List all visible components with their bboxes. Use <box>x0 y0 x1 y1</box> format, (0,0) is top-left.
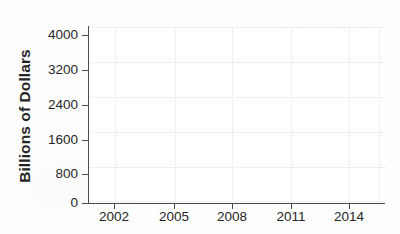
gridline-horizontal <box>88 132 385 133</box>
y-axis-tick-label: 2400 <box>22 98 78 112</box>
gridline-horizontal <box>88 62 385 63</box>
y-axis-tick-mark <box>82 35 88 36</box>
x-axis-tick-label: 2002 <box>89 210 139 224</box>
plot-background <box>88 27 385 204</box>
y-axis-tick-mark <box>82 140 88 141</box>
y-axis-tick-label: 0 <box>22 196 78 210</box>
y-axis-tick-label: 4000 <box>22 28 78 42</box>
y-axis-tick-mark <box>82 174 88 175</box>
gridline-horizontal <box>88 97 385 98</box>
y-axis-tick-label: 3200 <box>22 63 78 77</box>
chart-figure: Billions of Dollars 40003200240016008000… <box>0 0 400 234</box>
x-axis-line <box>88 203 385 204</box>
gridline-vertical <box>379 27 380 204</box>
gridline-vertical <box>175 27 176 204</box>
x-axis-tick-label: 2005 <box>149 210 199 224</box>
y-axis-tick-mark <box>82 105 88 106</box>
plot-area <box>88 27 385 204</box>
y-axis-tick-label: 800 <box>22 167 78 181</box>
gridline-horizontal <box>88 201 385 202</box>
gridline-vertical <box>291 27 292 204</box>
gridline-horizontal <box>88 167 385 168</box>
y-axis-title: Billions of Dollars <box>16 21 34 211</box>
gridline-vertical <box>232 27 233 204</box>
x-axis-tick-label: 2014 <box>324 210 374 224</box>
y-axis-tick-label: 1600 <box>22 133 78 147</box>
gridline-vertical <box>115 27 116 204</box>
x-axis-tick-label: 2008 <box>207 210 257 224</box>
y-axis-tick-mark <box>82 70 88 71</box>
gridline-vertical <box>349 27 350 204</box>
x-axis-tick-label: 2011 <box>266 210 316 224</box>
gridline-horizontal <box>88 27 385 28</box>
y-axis-tick-mark <box>82 203 88 204</box>
y-axis-line <box>88 26 89 204</box>
